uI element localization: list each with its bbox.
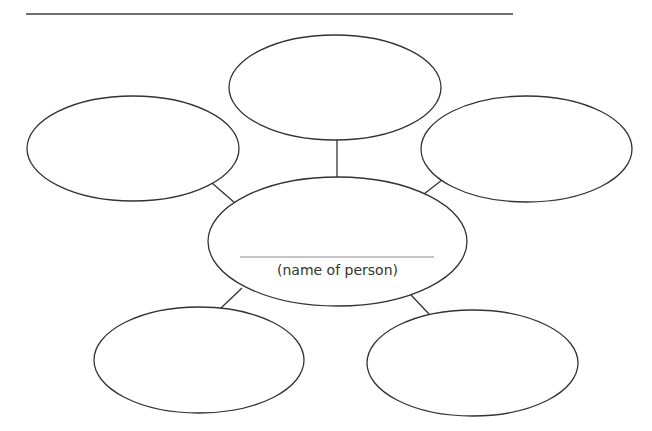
name-of-person-label: (name of person) bbox=[208, 262, 467, 278]
bubble-left[interactable] bbox=[27, 96, 239, 201]
bubble-bottom-left[interactable] bbox=[94, 307, 304, 413]
connector-left bbox=[212, 183, 235, 203]
bubble-bottom-right[interactable] bbox=[367, 310, 578, 416]
connector-bottom-left bbox=[221, 288, 242, 308]
bubble-right[interactable] bbox=[421, 96, 632, 202]
character-web-diagram bbox=[0, 0, 652, 431]
connector-right bbox=[424, 180, 442, 194]
bubble-top[interactable] bbox=[229, 35, 441, 140]
connector-bottom-right bbox=[411, 295, 429, 314]
center-bubble[interactable] bbox=[208, 177, 467, 306]
